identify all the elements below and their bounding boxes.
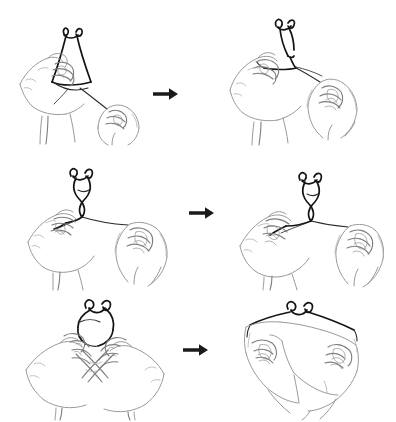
panel-1 (8, 12, 153, 145)
left-hand-1 (20, 54, 84, 144)
right-hand-3 (115, 222, 167, 286)
panel-3-drawing (20, 160, 172, 290)
panel-3 (20, 160, 172, 290)
panel-5 (20, 292, 172, 420)
arrow-right-icon (182, 340, 210, 360)
arrow-right-icon (152, 84, 180, 104)
instruction-figure (0, 0, 396, 422)
arrow-right-icon (188, 203, 216, 223)
arrow-1 (152, 84, 180, 104)
right-hand-1 (98, 105, 139, 145)
cord-group-6 (247, 302, 357, 341)
panel-6 (232, 295, 382, 420)
cord-group-3 (54, 169, 128, 229)
left-hand-2 (230, 53, 301, 145)
left-hand-3 (28, 210, 94, 290)
right-hand-6 (294, 339, 358, 420)
arrow-3 (182, 340, 210, 360)
panel-4-drawing (228, 160, 386, 290)
cord-group-5 (78, 300, 114, 346)
left-hand-4 (240, 212, 309, 290)
right-hand-5 (99, 338, 164, 420)
panel-5-drawing (20, 292, 172, 420)
arrow-2 (188, 203, 216, 223)
left-hand-6 (245, 322, 357, 413)
right-hand-4 (335, 224, 384, 287)
left-hand-5 (26, 334, 91, 420)
right-hand-2 (307, 79, 357, 140)
panel-1-drawing (8, 12, 153, 145)
cord-group-4 (270, 173, 348, 235)
panel-2 (216, 10, 376, 145)
panel-4 (228, 160, 386, 290)
panel-2-drawing (216, 10, 376, 145)
panel-6-drawing (232, 295, 382, 420)
